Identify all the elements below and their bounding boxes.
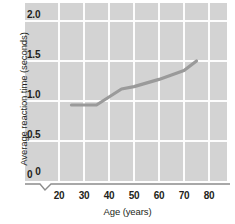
x-tick-label: 50 <box>121 190 147 201</box>
x-axis-title: Age (years) <box>25 206 230 217</box>
x-tick-label: 60 <box>146 190 172 201</box>
x-tick-label: 30 <box>71 190 97 201</box>
x-tick-label: 40 <box>96 190 122 201</box>
y-axis-title: Average reaction time (seconds) <box>16 6 32 192</box>
reaction-time-line-chart: 00.51.01.52.0 203040506070800 Average re… <box>0 0 235 224</box>
x-tick-label: 70 <box>171 190 197 201</box>
data-line-average-reaction-time <box>72 61 197 105</box>
x-tick-label: 80 <box>196 190 222 201</box>
series-layer <box>25 3 227 181</box>
x-tick-label: 20 <box>46 190 72 201</box>
